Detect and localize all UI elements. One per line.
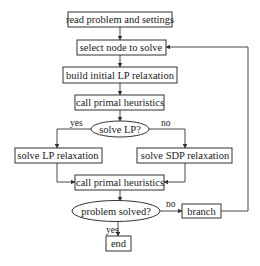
node-solve-lp: solve LP relaxation (15, 148, 102, 163)
node-branch: branch (182, 204, 221, 218)
edge-decide-lp-yes (57, 129, 91, 148)
node-end-label: end (111, 238, 127, 249)
edge-label-solved-yes: yes (106, 225, 119, 235)
flowchart: yes no no yes read problem and settings … (0, 0, 260, 266)
node-build-lp: build initial LP relaxation (63, 67, 177, 83)
node-branch-label: branch (187, 206, 216, 217)
node-solve-sdp-label: solve SDP relaxation (141, 150, 230, 161)
node-decide-problem-solved-label: problem solved? (81, 206, 151, 217)
node-primal-heuristics-1: call primal heuristics (75, 95, 164, 110)
edge-label-solved-no: no (166, 199, 176, 209)
node-read-problem: read problem and settings (66, 12, 174, 27)
node-primal-heuristics-1-label: call primal heuristics (76, 97, 164, 108)
node-primal-heuristics-2-label: call primal heuristics (76, 177, 164, 188)
node-select-node: select node to solve (77, 40, 166, 55)
node-read-problem-label: read problem and settings (66, 14, 174, 25)
edge-solve-lp-heuristics (57, 163, 75, 182)
node-decide-problem-solved: problem solved? (72, 201, 160, 222)
node-decide-solve-lp-label: solve LP? (99, 124, 141, 135)
node-end: end (106, 236, 131, 251)
edge-label-lp-no: no (161, 118, 171, 128)
edge-solve-sdp-heuristics (164, 163, 185, 182)
node-primal-heuristics-2: call primal heuristics (75, 175, 164, 190)
node-solve-sdp: solve SDP relaxation (137, 148, 232, 163)
node-solve-lp-label: solve LP relaxation (17, 150, 99, 161)
edge-label-lp-yes: yes (70, 118, 83, 128)
node-decide-solve-lp: solve LP? (91, 121, 149, 137)
edge-decide-lp-no (149, 129, 185, 148)
node-select-node-label: select node to solve (80, 42, 163, 53)
node-build-lp-label: build initial LP relaxation (66, 70, 175, 81)
